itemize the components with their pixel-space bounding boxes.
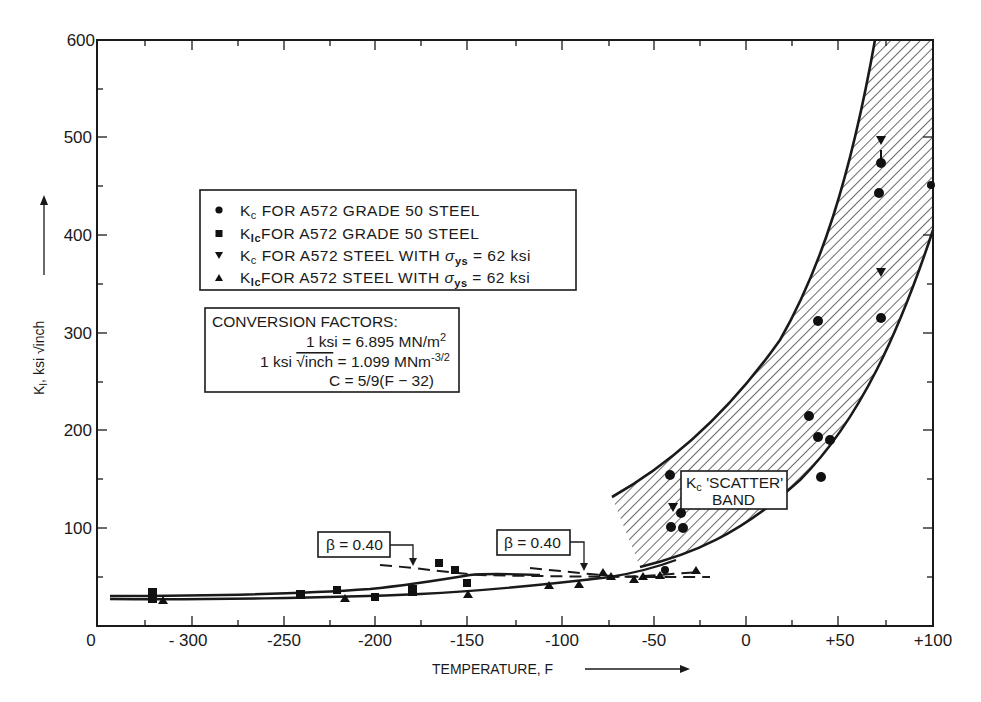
x-label-minus200: -200 <box>358 631 392 650</box>
y-title-rest: , ksi √inch <box>31 321 47 383</box>
conversion-line-1: 1 ksi = 6.895 MN/m2 <box>306 331 446 350</box>
circle-marker-icon <box>215 206 222 213</box>
y-axis-labels: 100 200 300 400 500 600 0 <box>64 31 96 650</box>
beta-arrow-2-icon <box>570 542 584 566</box>
conversion-factors: CONVERSION FACTORS: 1 ksi = 6.895 MN/m2 … <box>205 308 459 392</box>
square-marker-icon <box>216 230 223 237</box>
x-axis-arrowhead-icon <box>680 665 690 673</box>
x-label-minus300: - 300 <box>169 631 208 650</box>
svg-text:KIcFOR A572 GRADE 50 STEEL: KIcFOR A572 GRADE 50 STEEL <box>240 225 479 244</box>
y-axis-arrow-icon <box>40 195 48 275</box>
svg-text:KI, ksi √inch: KI, ksi √inch <box>31 321 49 395</box>
x-label-plus50: +50 <box>826 631 855 650</box>
beta-annotation-1: β = 0.40 <box>318 532 417 566</box>
x-label-minus100: -100 <box>545 631 579 650</box>
beta-label-1: β = 0.40 <box>326 536 383 553</box>
svg-text:BAND: BAND <box>712 491 755 508</box>
x-label-plus100: +100 <box>914 631 952 650</box>
y-label-400: 400 <box>64 226 92 245</box>
legend: Kc FOR A572 GRADE 50 STEEL KIcFOR A572 G… <box>200 190 576 290</box>
y-label-600: 600 <box>67 31 95 50</box>
x-label-minus250: -250 <box>267 631 301 650</box>
conversion-line-2: 1 ksi √inch = 1.099 MNm-3/2 <box>260 351 450 370</box>
x-label-0: 0 <box>741 631 750 650</box>
conversion-title: CONVERSION FACTORS: <box>212 313 398 330</box>
x-label-minus50: -50 <box>642 631 667 650</box>
kic-trend-curves <box>110 560 676 599</box>
conversion-line-3: C = 5/9(F − 32) <box>329 372 434 389</box>
beta-annotation-2: β = 0.40 <box>497 530 588 571</box>
chart-canvas: 100 200 300 400 500 600 0 - 300 -250 -20… <box>0 0 981 702</box>
y-label-100: 100 <box>64 519 92 538</box>
y-label-500: 500 <box>64 128 92 147</box>
y-label-200: 200 <box>64 421 92 440</box>
beta-label-2: β = 0.40 <box>504 534 561 551</box>
kic-lower-curve <box>110 560 676 599</box>
x-axis-title-text: TEMPERATURE, F <box>432 661 553 677</box>
x-axis-title: TEMPERATURE, F <box>432 661 690 677</box>
scatter-band-label: Kc 'SCATTER' BAND <box>681 471 787 509</box>
x-axis-labels: - 300 -250 -200 -150 -100 -50 0 +50 +100 <box>169 631 953 650</box>
kic-upper-curve <box>110 574 540 596</box>
origin-label: 0 <box>86 631 95 650</box>
y-label-300: 300 <box>64 324 92 343</box>
x-label-minus150: -150 <box>450 631 484 650</box>
svg-text:Kc FOR A572 GRADE 50 STEEL: Kc FOR A572 GRADE 50 STEEL <box>240 202 480 221</box>
y-axis-title: KI, ksi √inch <box>31 321 49 395</box>
